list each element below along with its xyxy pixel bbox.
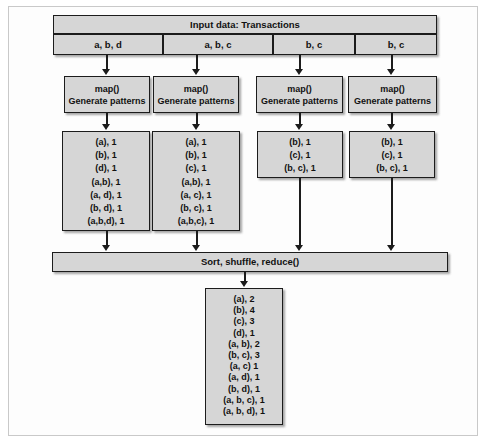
arrowhead-map2-to-output2 [295, 124, 303, 130]
map-output-1-row-5: (b, c), 1 [153, 202, 239, 215]
connector-output3-to-reducer [391, 178, 393, 246]
arrowhead-split1-to-map1 [192, 69, 200, 75]
arrowhead-output0-to-reducer [102, 245, 110, 251]
map-output-box-1: (a), 1 (b), 1 (c), 1 (a,b), 1 (a, c), 1 … [152, 131, 240, 231]
mapper-2-function: map() [287, 83, 312, 95]
map-output-3-row-1: (c), 1 [350, 149, 434, 162]
mapper-1-description: Generate patterns [157, 95, 234, 107]
final-output-row-8: (b, d), 1 [206, 384, 282, 395]
connector-split2-to-map2 [299, 55, 301, 70]
final-output-row-9: (a, b, c), 1 [206, 395, 282, 406]
connector-output2-to-reducer [299, 178, 301, 246]
mapper-box-2: map() Generate patterns [256, 76, 343, 113]
mapper-box-1: map() Generate patterns [153, 76, 239, 113]
connector-split3-to-map3 [391, 55, 393, 70]
map-output-3-row-0: (b), 1 [350, 136, 434, 149]
arrowhead-output1-to-reducer [192, 245, 200, 251]
map-output-box-0: (a), 1 (b), 1 (d), 1 (a,b), 1 (a, d), 1 … [62, 131, 150, 231]
final-output-row-10: (a, b, d), 1 [206, 406, 282, 417]
arrowhead-output2-to-reducer [295, 245, 303, 251]
connector-split0-to-map0 [106, 55, 108, 70]
diagram-canvas: Input data: Transactions a, b, d a, b, c… [0, 0, 489, 448]
map-output-0-row-4: (a, d), 1 [63, 189, 149, 202]
map-output-0-row-3: (a,b), 1 [63, 176, 149, 189]
map-output-1-row-6: (a,b,c), 1 [153, 215, 239, 228]
connector-split1-to-map1 [196, 55, 198, 70]
map-output-1-row-2: (c), 1 [153, 162, 239, 175]
final-output-row-0: (a), 2 [206, 294, 282, 305]
mapper-1-function: map() [184, 83, 209, 95]
final-output-row-1: (b), 4 [206, 305, 282, 316]
map-output-1-row-1: (b), 1 [153, 149, 239, 162]
arrowhead-map1-to-output1 [192, 124, 200, 130]
map-output-2-row-1: (c), 1 [258, 149, 342, 162]
map-output-1-row-0: (a), 1 [153, 136, 239, 149]
input-split-3: b, c [355, 34, 437, 55]
final-output-row-2: (c), 3 [206, 316, 282, 327]
final-output-row-5: (b, c), 3 [206, 350, 282, 361]
arrowhead-output3-to-reducer [387, 245, 395, 251]
input-data-title: Input data: Transactions [53, 15, 437, 34]
final-output-row-4: (a, b), 2 [206, 339, 282, 350]
map-output-1-row-3: (a,b), 1 [153, 176, 239, 189]
map-output-0-row-1: (b), 1 [63, 149, 149, 162]
arrowhead-split2-to-map2 [295, 69, 303, 75]
map-output-box-3: (b), 1 (c), 1 (b, c), 1 [349, 131, 435, 178]
map-output-0-row-6: (a,b,d), 1 [63, 215, 149, 228]
mapper-3-function: map() [380, 83, 405, 95]
final-output-box: (a), 2 (b), 4 (c), 3 (d), 1 (a, b), 2 (b… [205, 288, 283, 425]
final-output-row-3: (d), 1 [206, 328, 282, 339]
mapper-2-description: Generate patterns [261, 95, 338, 107]
input-split-2: b, c [273, 34, 355, 55]
input-split-0: a, b, d [53, 34, 163, 55]
connector-output0-to-reducer [106, 231, 108, 246]
map-output-2-row-0: (b), 1 [258, 136, 342, 149]
map-output-2-row-2: (b, c), 1 [258, 162, 342, 175]
mapper-box-3: map() Generate patterns [348, 76, 437, 113]
sort-shuffle-reduce-bar: Sort, shuffle, reduce() [52, 252, 448, 272]
final-output-row-7: (a, d), 1 [206, 372, 282, 383]
mapper-box-0: map() Generate patterns [64, 76, 150, 113]
map-output-0-row-5: (b, d), 1 [63, 202, 149, 215]
arrowhead-split0-to-map0 [102, 69, 110, 75]
arrowhead-reducer-to-final-output [240, 281, 248, 287]
map-output-3-row-2: (b, c), 1 [350, 162, 434, 175]
arrowhead-split3-to-map3 [387, 69, 395, 75]
map-output-0-row-2: (d), 1 [63, 162, 149, 175]
map-output-1-row-4: (a, c), 1 [153, 189, 239, 202]
connector-output1-to-reducer [196, 231, 198, 246]
map-output-box-2: (b), 1 (c), 1 (b, c), 1 [257, 131, 343, 178]
input-split-1: a, b, c [163, 34, 273, 55]
mapper-3-description: Generate patterns [354, 95, 431, 107]
arrowhead-map0-to-output0 [102, 124, 110, 130]
mapper-0-function: map() [95, 83, 120, 95]
final-output-row-6: (a, c) 1 [206, 361, 282, 372]
map-output-0-row-0: (a), 1 [63, 136, 149, 149]
mapper-0-description: Generate patterns [68, 95, 145, 107]
arrowhead-map3-to-output3 [387, 124, 395, 130]
